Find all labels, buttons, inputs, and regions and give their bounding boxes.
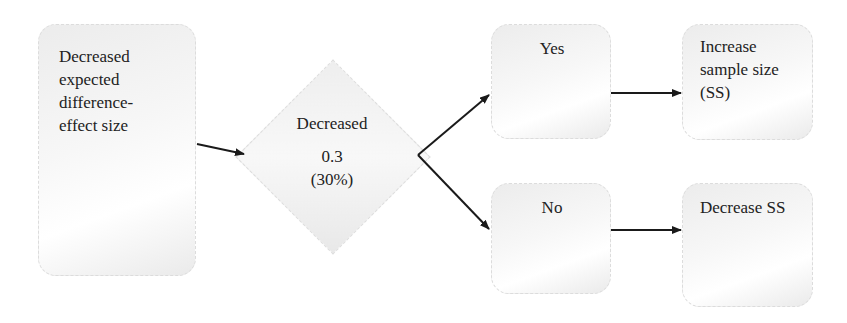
arrow-decision-to-no: [418, 155, 489, 229]
arrow-decision-to-yes: [418, 95, 489, 155]
arrows-layer: [0, 0, 847, 323]
arrow-start-to-decision: [197, 144, 244, 154]
